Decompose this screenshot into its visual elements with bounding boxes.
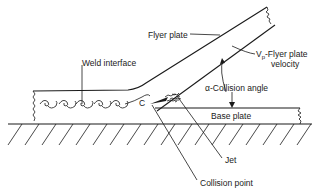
hatch-line xyxy=(25,124,39,145)
flyer-plate xyxy=(33,7,275,111)
explosive-welding-diagram: Flyer plate Vp-Flyer plate velocity α-Co… xyxy=(0,0,321,193)
weld-wave xyxy=(76,100,93,108)
velocity-label-line2: velocity xyxy=(271,59,300,69)
hatch-line xyxy=(93,124,107,145)
hatch-line xyxy=(110,124,124,145)
base-arrowhead xyxy=(229,102,235,108)
hatch-line xyxy=(246,124,260,145)
hatch-line xyxy=(144,124,158,145)
hatch-line xyxy=(59,124,73,145)
hatch-line xyxy=(8,124,22,145)
velocity-leader xyxy=(232,46,255,54)
collision-angle-label: α-Collision angle xyxy=(205,83,268,93)
ground-hatching xyxy=(8,124,311,145)
weld-wave xyxy=(94,100,111,108)
hatch-line xyxy=(229,124,243,145)
collision-point-leader xyxy=(152,105,197,180)
jet-label: Jet xyxy=(225,155,237,165)
weld-wave xyxy=(59,100,76,108)
weld-wave xyxy=(40,100,57,108)
hatch-line xyxy=(178,124,192,145)
collision-point-marker: C xyxy=(139,98,145,108)
base-plate-label: Base plate xyxy=(211,111,251,121)
weld-interface-label: Weld interface xyxy=(82,58,136,68)
hatch-line xyxy=(76,124,90,145)
hatch-line xyxy=(161,124,175,145)
hatch-line xyxy=(263,124,277,145)
collision-angle-arrowhead xyxy=(220,58,225,64)
flyer-plate-leader xyxy=(190,34,220,35)
hatch-line xyxy=(127,124,141,145)
jet-spray xyxy=(150,93,181,104)
hatch-line xyxy=(297,124,311,145)
weld-interface-tail xyxy=(125,95,150,104)
hatch-line xyxy=(42,124,56,145)
hatch-line xyxy=(212,124,226,145)
hatch-line xyxy=(280,124,294,145)
collision-point-label: Collision point xyxy=(200,178,254,188)
hatch-line xyxy=(195,124,209,145)
jet-leader xyxy=(177,96,222,158)
flyer-plate-label: Flyer plate xyxy=(148,30,188,40)
left-break-edge xyxy=(33,91,35,121)
